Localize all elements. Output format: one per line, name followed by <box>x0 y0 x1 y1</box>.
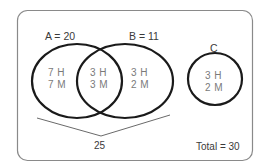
set-a-label: A = 20 <box>45 30 75 42</box>
venn-diagram: A = 20 B = 11 C 7 H 7 M 3 H 3 M 3 H 2 M … <box>0 0 262 168</box>
total-label: Total = 30 <box>196 141 240 152</box>
region-c-only-line2: 2 M <box>205 82 223 93</box>
region-b-only-line1: 3 H <box>131 67 148 78</box>
union-bracket-label: 25 <box>94 140 106 151</box>
set-b-label: B = 11 <box>129 30 159 42</box>
region-a-and-b-line2: 3 M <box>90 79 108 90</box>
region-c-only-line1: 3 H <box>205 70 222 81</box>
region-b-only-line2: 2 M <box>131 79 149 90</box>
region-a-only-line2: 7 M <box>48 79 66 90</box>
region-a-only-line1: 7 H <box>48 67 65 78</box>
region-a-and-b-line1: 3 H <box>90 67 107 78</box>
union-bracket <box>37 115 170 136</box>
set-c-label: C <box>210 42 218 54</box>
